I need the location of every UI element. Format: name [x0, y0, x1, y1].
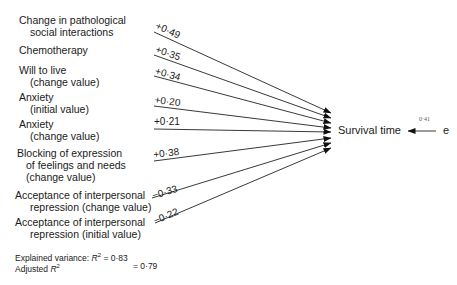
- predictor-label-7: Acceptance of interpersonal repression (…: [15, 189, 151, 213]
- error-term-label: e: [443, 124, 449, 136]
- path-line-5: [154, 129, 331, 132]
- predictor-label-5: Anxiety (change value): [19, 118, 99, 142]
- predictor-label-3: Will to live (change value): [19, 64, 99, 88]
- predictor-label-8: Acceptance of interpersonal repression (…: [15, 216, 145, 240]
- predictor-label-6: Blocking of expression of feelings and n…: [17, 147, 126, 183]
- path-arrows: [0, 0, 457, 285]
- outcome-label: Survival time: [338, 124, 401, 136]
- predictor-label-1: Change in pathological social interactio…: [19, 14, 126, 38]
- path-line-4: [154, 106, 331, 128]
- coefficient-5: +0·21: [154, 116, 180, 127]
- predictor-label-2: Chemotherapy: [19, 44, 88, 56]
- path-line-6: [154, 138, 331, 161]
- error-coefficient: 0·41: [419, 116, 430, 122]
- predictor-label-4: Anxiety (initial value): [19, 91, 89, 115]
- path-line-8: [155, 148, 331, 223]
- path-line-2: [154, 55, 331, 118]
- adjusted-r2: Adjusted R2 = 0·79: [15, 261, 60, 274]
